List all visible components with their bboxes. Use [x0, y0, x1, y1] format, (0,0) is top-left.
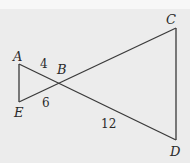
label-b: B — [56, 62, 67, 77]
label-c: C — [166, 12, 176, 27]
measure-ab: 4 — [40, 57, 48, 71]
label-e: E — [13, 105, 24, 120]
label-a: A — [12, 49, 22, 64]
triangle-figure: A E B C D 4 6 12 — [0, 0, 190, 163]
diagram-canvas: A E B C D 4 6 12 — [0, 0, 190, 163]
label-d: D — [169, 144, 181, 159]
measure-bd: 12 — [101, 117, 116, 131]
measure-eb: 6 — [42, 96, 50, 110]
